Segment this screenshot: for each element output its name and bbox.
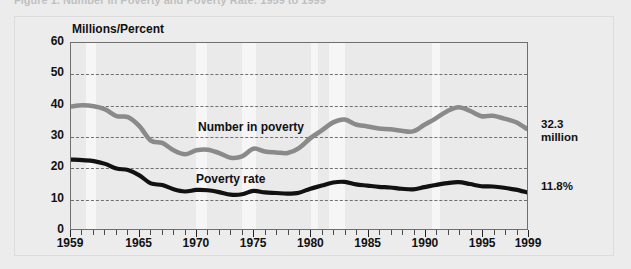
x-axis-tick: [173, 230, 174, 235]
x-axis-tick: [139, 230, 140, 237]
x-axis-tick: [162, 230, 163, 235]
x-axis-tick: [150, 230, 151, 235]
callout-number-in-poverty: 32.3 million: [541, 118, 578, 144]
x-tick-label: 1980: [297, 236, 324, 250]
x-axis-tick: [230, 230, 231, 235]
x-axis-tick: [310, 230, 311, 237]
x-axis-tick: [482, 230, 483, 237]
x-tick-label: 1999: [515, 236, 542, 250]
x-axis-tick: [425, 230, 426, 237]
x-axis-tick: [379, 230, 380, 235]
poverty-figure: Figure 1. Number in Poverty and Poverty …: [0, 0, 631, 269]
y-tick-label: 60: [30, 34, 64, 48]
x-axis-tick: [448, 230, 449, 235]
data-lines: [71, 43, 527, 229]
x-axis-tick: [402, 230, 403, 235]
poverty-rate-line: [71, 160, 527, 195]
x-axis-tick: [436, 230, 437, 235]
x-axis-tick: [127, 230, 128, 235]
y-tick-label: 10: [30, 191, 64, 205]
y-tick-label: 40: [30, 97, 64, 111]
x-axis-tick: [81, 230, 82, 235]
x-tick-label: 1995: [469, 236, 496, 250]
x-axis-tick: [288, 230, 289, 235]
x-axis-tick: [322, 230, 323, 235]
figure-title: Figure 1. Number in Poverty and Poverty …: [14, 0, 614, 8]
x-axis-tick: [391, 230, 392, 235]
x-axis-tick: [368, 230, 369, 237]
x-axis-tick: [459, 230, 460, 235]
callout-number-value: 32.3: [541, 118, 578, 131]
x-axis-tick: [517, 230, 518, 235]
x-axis-tick: [196, 230, 197, 237]
x-axis-tick: [471, 230, 472, 235]
x-axis-tick: [505, 230, 506, 235]
x-axis-tick: [207, 230, 208, 235]
y-tick-label: 0: [30, 222, 64, 236]
callout-poverty-rate: 11.8%: [541, 180, 573, 193]
x-axis-tick: [345, 230, 346, 235]
x-axis-tick: [104, 230, 105, 235]
x-axis-tick: [333, 230, 334, 235]
x-axis-tick: [276, 230, 277, 235]
plot-area: [70, 42, 528, 230]
x-axis-tick: [93, 230, 94, 235]
x-tick-label: 1959: [57, 236, 84, 250]
series-label-poverty-rate: Poverty rate: [196, 172, 265, 186]
y-axis-title: Millions/Percent: [72, 22, 164, 36]
y-tick-label: 50: [30, 65, 64, 79]
y-tick-label: 20: [30, 159, 64, 173]
x-axis-tick: [265, 230, 266, 235]
x-tick-label: 1990: [412, 236, 439, 250]
x-axis-tick: [414, 230, 415, 235]
x-tick-label: 1985: [354, 236, 381, 250]
x-tick-label: 1970: [183, 236, 210, 250]
y-tick-label: 30: [30, 128, 64, 142]
x-axis-tick: [494, 230, 495, 235]
x-axis-tick: [116, 230, 117, 235]
x-axis-tick: [242, 230, 243, 235]
x-axis-tick: [299, 230, 300, 235]
x-axis-tick: [356, 230, 357, 235]
x-axis-tick: [219, 230, 220, 235]
callout-number-unit: million: [541, 131, 578, 144]
x-axis-tick: [253, 230, 254, 237]
x-axis-tick: [528, 230, 529, 237]
series-label-number-in-poverty: Number in poverty: [198, 120, 304, 134]
x-axis-tick: [185, 230, 186, 235]
x-tick-label: 1965: [125, 236, 152, 250]
x-axis-tick: [70, 230, 71, 237]
x-tick-label: 1975: [240, 236, 267, 250]
